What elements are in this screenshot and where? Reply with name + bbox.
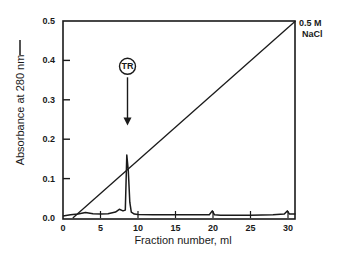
chromatography-chart: 0.00.10.20.30.40.5 051015202530 TR Fract… xyxy=(0,0,340,269)
x-tick-label: 5 xyxy=(98,223,103,233)
y-tick-label: 0.5 xyxy=(42,16,55,26)
x-tick-label: 10 xyxy=(133,223,143,233)
y-tick-label: 0.4 xyxy=(42,55,55,65)
arrow-down-icon xyxy=(124,117,132,125)
y-axis-ticks: 0.00.10.20.30.40.5 xyxy=(42,16,70,223)
x-tick-label: 15 xyxy=(170,223,180,233)
y-axis-label-group: Absorbance at 280 nm xyxy=(14,55,26,166)
plot-frame xyxy=(63,21,295,219)
x-tick-label: 25 xyxy=(245,223,255,233)
annotations: TR xyxy=(120,58,136,125)
y-axis-label: Absorbance at 280 nm xyxy=(14,55,26,166)
y-tick-label: 0.1 xyxy=(42,174,55,184)
y-tick-label: 0.0 xyxy=(42,213,55,223)
x-tick-label: 20 xyxy=(208,223,218,233)
x-tick-label: 0 xyxy=(60,223,65,233)
absorbance-trace xyxy=(63,155,296,216)
x-axis-label: Fraction number, ml xyxy=(134,234,231,246)
tr-label: TR xyxy=(122,61,134,71)
data-series xyxy=(63,21,296,218)
nacl-gradient-line xyxy=(73,21,296,218)
nacl-label-line1: 0.5 M xyxy=(299,18,322,28)
y-tick-label: 0.3 xyxy=(42,95,55,105)
y-tick-label: 0.2 xyxy=(42,134,55,144)
nacl-label-line2: NaCl xyxy=(302,29,323,39)
plot-border xyxy=(63,21,295,219)
x-tick-label: 30 xyxy=(283,223,293,233)
